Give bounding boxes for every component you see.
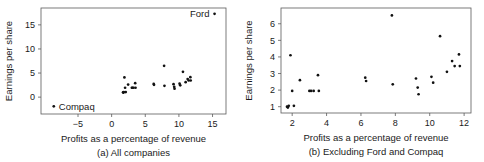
panel-a-plot: −5051015051015FordCompaqEarnings per sha…	[0, 0, 242, 162]
data-point	[391, 83, 394, 86]
data-point	[317, 90, 320, 93]
data-point	[124, 91, 127, 94]
data-point	[127, 83, 130, 86]
panel-caption: (b) Excluding Ford and Compaq	[309, 146, 444, 157]
data-point	[446, 71, 449, 74]
data-point	[134, 82, 137, 85]
data-point	[299, 79, 302, 82]
data-point	[134, 86, 137, 89]
data-point	[182, 70, 185, 73]
data-point	[416, 86, 419, 89]
data-point	[310, 90, 313, 93]
data-point	[458, 53, 461, 56]
data-point-series	[52, 12, 215, 107]
data-point	[52, 105, 55, 108]
data-point	[163, 64, 166, 67]
x-tick-label: −5	[73, 119, 83, 129]
data-point	[430, 75, 433, 78]
data-point	[391, 14, 394, 17]
data-point	[439, 35, 442, 38]
data-point	[289, 54, 292, 57]
point-annotation-label: Ford	[190, 8, 210, 19]
data-point	[172, 83, 175, 86]
data-point	[189, 79, 192, 82]
point-annotation-label: Compaq	[59, 101, 95, 112]
data-point	[458, 65, 461, 68]
y-tick-label: 4	[270, 52, 275, 62]
data-point	[124, 86, 127, 89]
x-tick-label: 8	[393, 118, 398, 128]
panel-b-plot: 24681012123456Earnings per shareProfits …	[242, 0, 484, 162]
x-tick-label: 12	[459, 118, 469, 128]
y-tick-label: 3	[270, 69, 275, 79]
data-point	[293, 105, 296, 108]
x-tick-label: 5	[143, 119, 148, 129]
data-point-series	[286, 14, 461, 109]
y-tick-label: 6	[270, 19, 275, 29]
data-point	[417, 93, 420, 96]
data-point	[163, 84, 166, 87]
y-tick-label: 1	[270, 102, 275, 112]
data-point	[173, 87, 176, 90]
two-panel-scatter-figure: −5051015051015FordCompaqEarnings per sha…	[0, 0, 484, 162]
plot-frame	[41, 8, 226, 114]
y-axis-title: Earnings per share	[3, 21, 14, 101]
y-tick-label: 15	[25, 20, 35, 30]
x-tick-label: 4	[324, 118, 329, 128]
x-tick-label: 2	[290, 118, 295, 128]
data-point	[287, 105, 290, 108]
plot-frame	[281, 8, 471, 113]
data-point	[312, 90, 315, 93]
x-tick-label: 10	[174, 119, 184, 129]
data-point	[291, 90, 294, 93]
data-point	[317, 74, 320, 77]
data-point	[213, 12, 216, 15]
data-point	[453, 65, 456, 68]
x-tick-label: 10	[425, 118, 435, 128]
data-point	[153, 84, 156, 87]
x-tick-label: 6	[358, 118, 363, 128]
data-point	[364, 76, 367, 79]
x-axis-title: Profits as a percentage of revenue	[303, 132, 448, 143]
data-point	[184, 81, 187, 84]
data-point	[432, 81, 435, 84]
y-tick-label: 5	[270, 36, 275, 46]
y-axis-title: Earnings per share	[243, 20, 254, 100]
y-tick-label: 5	[30, 68, 35, 78]
y-tick-label: 2	[270, 85, 275, 95]
x-tick-label: 0	[109, 119, 114, 129]
panel-b-excluding-outliers: 24681012123456Earnings per shareProfits …	[242, 0, 484, 162]
panel-caption: (a) All companies	[97, 147, 170, 158]
y-tick-label: 10	[25, 44, 35, 54]
data-point	[365, 80, 368, 83]
data-point	[415, 77, 418, 80]
data-point	[189, 76, 192, 79]
x-tick-label: 15	[208, 119, 218, 129]
y-tick-label: 0	[30, 92, 35, 102]
data-point	[123, 76, 126, 79]
panel-a-all-companies: −5051015051015FordCompaqEarnings per sha…	[0, 0, 242, 162]
data-point	[451, 60, 454, 63]
data-point	[179, 84, 182, 87]
x-axis-title: Profits as a percentage of revenue	[61, 133, 206, 144]
